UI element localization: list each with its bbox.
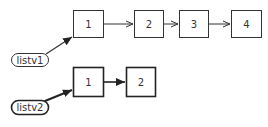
pill-label-listv1: listv1 [17,55,44,66]
svg-text:1: 1 [85,77,91,88]
svg-text:1: 1 [85,19,91,30]
pill-label-listv2: listv2 [17,102,44,113]
list-listv2: listv2 1 2 [12,68,156,115]
svg-text:4: 4 [243,19,249,30]
pointer-arrow-listv1 [46,37,72,54]
svg-text:2: 2 [146,19,152,30]
node-listv2-2: 2 [127,68,156,97]
node-listv2-1: 1 [74,68,104,97]
pointer-arrow-listv2 [45,90,72,101]
linked-list-diagram: listv1 1 2 3 4 listv2 [0,0,268,127]
node-listv1-2: 2 [135,11,164,38]
svg-text:3: 3 [191,19,197,30]
svg-text:2: 2 [138,77,144,88]
pill-listv1: listv1 [12,54,49,67]
node-listv1-3: 3 [180,11,209,38]
list-listv1: listv1 1 2 3 4 [12,11,262,67]
node-listv1-4: 4 [232,11,262,38]
node-listv1-1: 1 [74,11,104,38]
pill-listv2: listv2 [12,101,49,115]
